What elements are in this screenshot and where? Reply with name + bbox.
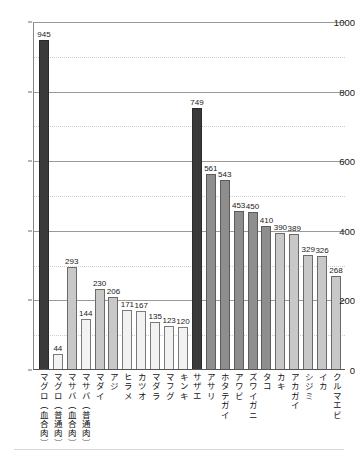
x-axis-category-label: イカ <box>317 373 327 392</box>
y-axis-tick-mark <box>28 370 32 371</box>
x-axis-category-label: マサバ（普通肉） <box>80 373 90 448</box>
bar-value-label: 543 <box>218 170 231 180</box>
bar-slot: 293 <box>65 22 79 369</box>
x-axis-label-slot: マグロ（血合肉） <box>36 373 50 453</box>
x-axis-category-label: タコ <box>261 373 271 392</box>
bar[interactable]: 453 <box>234 211 244 369</box>
bar-value-label: 44 <box>53 344 62 354</box>
x-axis-category-label: シジミ <box>303 373 313 401</box>
bar-value-label: 326 <box>315 246 328 256</box>
bar[interactable]: 326 <box>317 256 327 369</box>
x-axis-label-slot: シジミ <box>301 373 315 453</box>
bar-value-label: 749 <box>190 98 203 108</box>
x-axis-label-slot: マサバ（普通肉） <box>78 373 92 453</box>
y-axis-tick-mark <box>28 91 32 92</box>
bar[interactable]: 206 <box>108 297 118 369</box>
x-axis-label-slot: タコ <box>259 373 273 453</box>
bar[interactable]: 410 <box>261 226 271 369</box>
x-axis-label-slot: イカ <box>315 373 329 453</box>
bar-value-label: 293 <box>65 257 78 267</box>
x-axis-category-label: アジ <box>108 373 118 392</box>
x-axis-label-slot: アサリ <box>203 373 217 453</box>
bar-slot: 135 <box>148 22 162 369</box>
bar-slot: 167 <box>134 22 148 369</box>
bar-slot: 389 <box>287 22 301 369</box>
bar[interactable]: 123 <box>164 326 174 369</box>
y-axis-tick-label: 400 <box>327 225 355 236</box>
x-axis-category-label: ヒラメ <box>122 373 132 401</box>
bar-value-label: 171 <box>121 300 134 310</box>
bar[interactable]: 268 <box>331 276 341 369</box>
bar-value-label: 268 <box>329 266 342 276</box>
bar[interactable]: 167 <box>136 311 146 369</box>
x-axis-label-slot: マグロ（普通肉） <box>50 373 64 453</box>
x-axis-category-label: サザエ <box>191 373 201 401</box>
bar[interactable]: 293 <box>67 267 77 369</box>
bar-slot: 749 <box>190 22 204 369</box>
x-axis-label-slot: キンキ <box>176 373 190 453</box>
bar-series: 9454429314423020617116713512312074956154… <box>34 22 345 369</box>
bar[interactable]: 230 <box>95 289 105 369</box>
bar[interactable]: 135 <box>150 322 160 369</box>
x-axis-label-slot: アジ <box>106 373 120 453</box>
bar-slot: 171 <box>120 22 134 369</box>
x-axis-category-label: マダイ <box>94 373 104 401</box>
bar-value-label: 206 <box>107 287 120 297</box>
bar-value-label: 453 <box>232 201 245 211</box>
y-axis-tick-label: 200 <box>327 295 355 306</box>
x-axis-label-slot: クルマエビ <box>329 373 343 453</box>
x-axis-category-label: アカガイ <box>289 373 299 411</box>
bar-value-label: 120 <box>176 317 189 327</box>
bar-slot: 945 <box>37 22 51 369</box>
x-axis-category-label: マサバ（血合肉） <box>66 373 76 448</box>
y-axis-tick-label: 600 <box>327 156 355 167</box>
bar[interactable]: 389 <box>289 234 299 369</box>
bar-slot: 543 <box>218 22 232 369</box>
bar[interactable]: 329 <box>303 255 313 369</box>
plot-area: 9454429314423020617116713512312074956154… <box>33 22 345 370</box>
bar-value-label: 167 <box>135 301 148 311</box>
bar-slot: 44 <box>51 22 65 369</box>
bar-slot: 329 <box>301 22 315 369</box>
bar[interactable]: 543 <box>220 180 230 369</box>
bar[interactable]: 390 <box>275 233 285 369</box>
y-axis-tick-mark <box>28 161 32 162</box>
bar-slot: 230 <box>93 22 107 369</box>
x-axis-label-slot: アカガイ <box>287 373 301 453</box>
x-axis-category-label: マグロ（普通肉） <box>52 373 62 448</box>
bar-value-label: 390 <box>274 223 287 233</box>
bar[interactable]: 749 <box>192 108 202 369</box>
x-axis-category-label: アワビ <box>233 373 243 401</box>
bar[interactable]: 450 <box>248 212 258 369</box>
x-axis-category-label: キンキ <box>178 373 188 401</box>
bar-slot: 453 <box>232 22 246 369</box>
x-axis-category-label: クルマエビ <box>331 373 341 420</box>
bar-slot: 410 <box>260 22 274 369</box>
bar-slot: 561 <box>204 22 218 369</box>
x-axis-label-slot: ヒラメ <box>120 373 134 453</box>
x-axis-category-label: アサリ <box>205 373 215 401</box>
bar-chart: 9454429314423020617116713512312074956154… <box>0 0 355 453</box>
bar[interactable]: 945 <box>39 40 49 369</box>
x-axis-category-label: マフグ <box>164 373 174 401</box>
bottom-divider <box>14 449 344 450</box>
bar[interactable]: 44 <box>53 354 63 369</box>
bar-value-label: 329 <box>301 245 314 255</box>
y-axis-tick-label: 1000 <box>327 17 355 28</box>
bar[interactable]: 120 <box>178 327 188 369</box>
bar-value-label: 123 <box>162 316 175 326</box>
x-axis-label-slot: マサバ（血合肉） <box>64 373 78 453</box>
bar-slot: 123 <box>162 22 176 369</box>
bar[interactable]: 144 <box>81 319 91 369</box>
bar-slot: 268 <box>329 22 343 369</box>
bar[interactable]: 561 <box>206 174 216 369</box>
x-axis-label-slot: アワビ <box>231 373 245 453</box>
bar-slot: 390 <box>273 22 287 369</box>
x-axis-label-slot: サザエ <box>189 373 203 453</box>
x-axis-label-slot: カツオ <box>134 373 148 453</box>
bar-slot: 120 <box>176 22 190 369</box>
bar[interactable]: 171 <box>122 310 132 370</box>
x-axis-category-label: カツオ <box>136 373 146 401</box>
x-axis-label-slot: マダイ <box>92 373 106 453</box>
x-axis-category-label: マダラ <box>150 373 160 401</box>
